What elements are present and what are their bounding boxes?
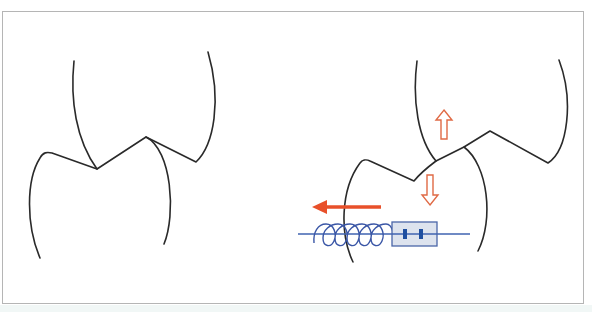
hollow-down-arrow-icon	[422, 175, 438, 205]
left-panel	[30, 52, 216, 258]
right-lower-tooth-profile	[344, 160, 436, 262]
left-upper-tooth	[73, 52, 215, 169]
coil-spring-icon	[314, 224, 393, 246]
slider-pin-left	[403, 229, 407, 239]
gear-mesh-diagram	[0, 0, 592, 312]
slider-pin-right	[419, 229, 423, 239]
right-upper-tooth	[415, 60, 567, 163]
right-panel	[344, 60, 567, 262]
left-lower-tooth-flank	[146, 137, 170, 244]
left-lower-tooth-profile	[30, 153, 98, 258]
solid-left-arrow-icon	[312, 200, 381, 214]
right-lower-tooth-flank	[464, 147, 487, 251]
hollow-up-arrow-icon	[436, 110, 452, 139]
